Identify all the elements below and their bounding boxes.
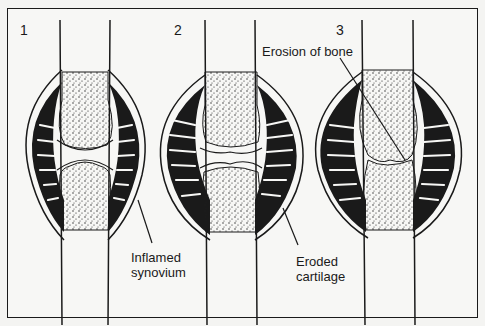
label-eroded: Eroded [296, 254, 345, 269]
label-eroded-cartilage: Eroded cartilage [296, 254, 345, 284]
label-synovium: synovium [131, 265, 186, 280]
label-inflamed: Inflamed [131, 250, 186, 265]
panel-number-3: 3 [336, 22, 344, 38]
joint-diagram [0, 0, 485, 326]
panel-number-1: 1 [20, 22, 28, 38]
label-inflamed-synovium: Inflamed synovium [131, 250, 186, 280]
panel-number-2: 2 [174, 22, 182, 38]
label-cartilage: cartilage [296, 269, 345, 284]
label-erosion-of-bone: Erosion of bone [262, 44, 353, 59]
